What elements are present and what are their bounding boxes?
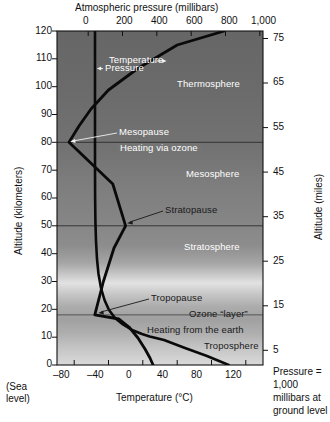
axes-frame bbox=[0, 0, 330, 422]
atmosphere-structure-chart: Atmospheric pressure (millibars) 0 200 4… bbox=[0, 0, 330, 422]
